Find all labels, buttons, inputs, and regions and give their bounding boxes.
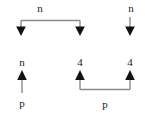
bottom-bracket-right-arrowhead [125,70,135,80]
bottom-left-arrow-group [17,70,27,93]
diagram-canvas: n n n p 4 4 p [0,0,145,120]
bottom-bracket-group [75,70,135,90]
top-bracket-right-arrowhead [75,27,85,37]
label-four-right: 4 [123,57,137,68]
top-right-arrowhead [125,27,135,37]
top-bracket-group [16,21,85,37]
label-n-bottom-left: n [14,57,30,68]
top-bracket-left-arrowhead [16,27,26,37]
label-p-bottom-left: p [14,98,30,109]
label-p-bottom-bracket: p [97,99,113,110]
top-right-arrow-group [125,17,135,36]
bottom-bracket-left-arrowhead [75,70,85,80]
label-n-top-right: n [123,3,139,14]
label-n-top-bracket: n [32,3,48,14]
label-four-left: 4 [73,57,87,68]
bottom-left-arrowhead [17,70,27,80]
